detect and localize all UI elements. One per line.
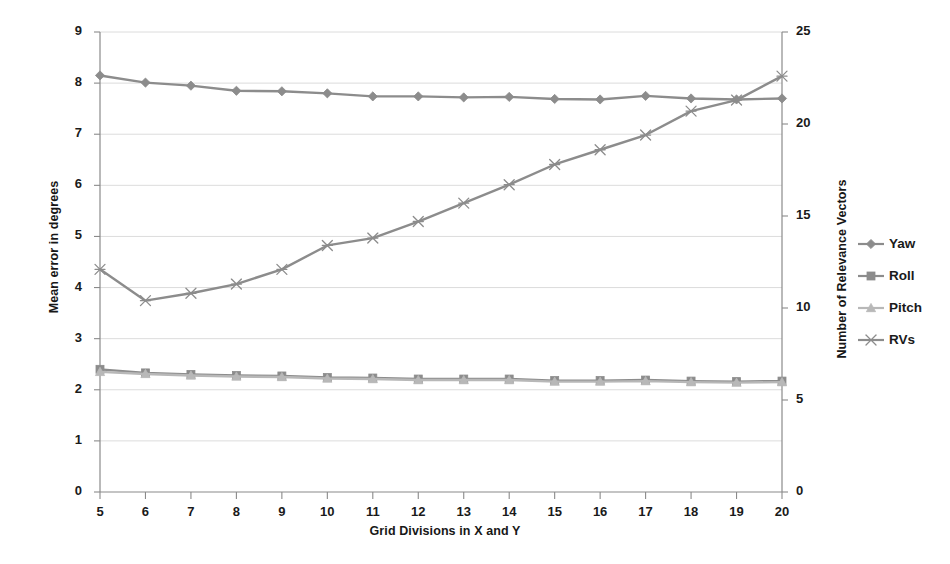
legend-marker-diamond-icon — [856, 236, 886, 252]
y-tick-label-left: 5 — [52, 227, 82, 242]
x-tick-label: 15 — [535, 504, 575, 519]
legend-marker-square-icon — [856, 268, 886, 284]
x-tick-label: 8 — [216, 504, 256, 519]
data-point-diamond — [95, 71, 104, 80]
data-point-asterisk — [595, 145, 605, 155]
data-point-asterisk — [686, 106, 696, 116]
data-point-diamond — [368, 92, 377, 101]
x-tick-label: 14 — [489, 504, 529, 519]
x-tick-label: 17 — [626, 504, 666, 519]
legend-item-roll[interactable]: Roll — [856, 268, 922, 284]
y-tick-label-left: 6 — [52, 176, 82, 191]
chart-root: Mean error in degrees Number of Relevanc… — [0, 0, 950, 564]
data-point-asterisk — [277, 264, 287, 274]
y-tick-label-right: 20 — [796, 115, 832, 130]
x-tick-label: 12 — [398, 504, 438, 519]
data-point-diamond — [141, 78, 150, 87]
data-point-asterisk — [504, 180, 514, 190]
y-tick-label-left: 4 — [52, 279, 82, 294]
y-tick-label-left: 8 — [52, 74, 82, 89]
data-point-diamond — [550, 94, 559, 103]
data-point-asterisk — [322, 240, 332, 250]
data-point-asterisk — [368, 233, 378, 243]
x-tick-label: 20 — [762, 504, 802, 519]
data-point-asterisk — [866, 335, 876, 345]
x-tick-label: 6 — [125, 504, 165, 519]
y-tick-label-right: 0 — [796, 483, 832, 498]
x-tick-label: 5 — [80, 504, 120, 519]
legend-label: Pitch — [889, 301, 922, 315]
data-point-diamond — [505, 92, 514, 101]
y-tick-label-left: 3 — [52, 330, 82, 345]
legend-item-pitch[interactable]: Pitch — [856, 300, 922, 316]
data-point-diamond — [414, 92, 423, 101]
y-tick-label-left: 9 — [52, 23, 82, 38]
y-tick-label-right: 15 — [796, 207, 832, 222]
data-point-diamond — [323, 89, 332, 98]
x-axis-title: Grid Divisions in X and Y — [100, 524, 790, 538]
x-tick-label: 16 — [580, 504, 620, 519]
legend-label: Roll — [889, 269, 915, 283]
plot-area — [0, 0, 950, 564]
y-axis-right-title: Number of Relevance Vectors — [835, 149, 849, 389]
data-point-diamond — [596, 95, 605, 104]
data-point-diamond — [686, 94, 695, 103]
data-point-asterisk — [186, 288, 196, 298]
x-tick-label: 9 — [262, 504, 302, 519]
x-tick-label: 7 — [171, 504, 211, 519]
x-tick-label: 11 — [353, 504, 393, 519]
data-point-asterisk — [550, 159, 560, 169]
y-tick-label-left: 2 — [52, 381, 82, 396]
data-point-asterisk — [641, 130, 651, 140]
x-tick-label: 13 — [444, 504, 484, 519]
y-tick-label-right: 10 — [796, 299, 832, 314]
data-point-diamond — [641, 91, 650, 100]
data-point-square — [867, 272, 875, 280]
data-point-asterisk — [140, 296, 150, 306]
data-point-diamond — [186, 81, 195, 90]
y-tick-label-right: 25 — [796, 23, 832, 38]
y-tick-label-left: 1 — [52, 432, 82, 447]
data-point-diamond — [866, 239, 875, 248]
data-point-diamond — [277, 87, 286, 96]
legend-item-rvs[interactable]: RVs — [856, 332, 922, 348]
legend-marker-triangle-icon — [856, 300, 886, 316]
legend: YawRollPitchRVs — [856, 236, 922, 348]
data-point-diamond — [459, 93, 468, 102]
legend-label: RVs — [889, 333, 915, 347]
series-line-rvs — [100, 76, 782, 300]
x-tick-label: 18 — [671, 504, 711, 519]
data-point-asterisk — [413, 217, 423, 227]
y-tick-label-left: 0 — [52, 483, 82, 498]
data-point-diamond — [232, 86, 241, 95]
legend-marker-asterisk-icon — [856, 332, 886, 348]
series-line-yaw — [100, 75, 782, 99]
legend-label: Yaw — [889, 237, 915, 251]
y-tick-label-right: 5 — [796, 391, 832, 406]
y-tick-label-left: 7 — [52, 125, 82, 140]
x-tick-label: 19 — [717, 504, 757, 519]
x-tick-label: 10 — [307, 504, 347, 519]
data-point-asterisk — [459, 198, 469, 208]
legend-item-yaw[interactable]: Yaw — [856, 236, 922, 252]
data-point-diamond — [777, 94, 786, 103]
